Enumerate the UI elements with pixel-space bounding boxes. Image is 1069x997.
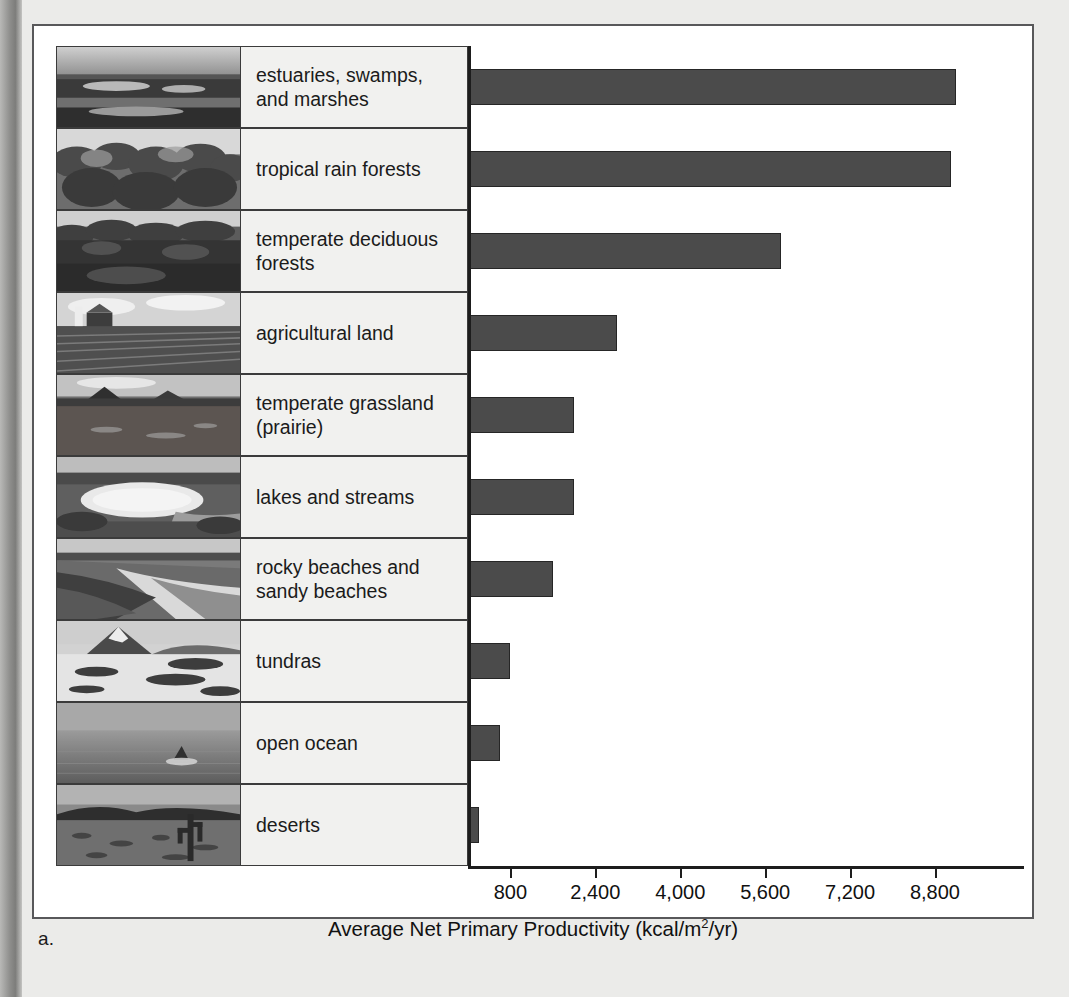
bar-chart: estuaries, swamps,and marshes tropical r… [34, 26, 1032, 917]
bar-track [468, 702, 996, 784]
x-axis-tick-label: 4,000 [655, 881, 705, 904]
open-ocean-photo [56, 702, 241, 784]
chart-row: agricultural land [56, 292, 996, 374]
chart-row: lakes and streams [56, 456, 996, 538]
category-label: temperate deciduousforests [241, 227, 444, 275]
chart-row: deserts [56, 784, 996, 866]
category-cell: lakes and streams [241, 456, 468, 538]
x-axis-tick [680, 869, 682, 878]
x-axis-tick [850, 869, 852, 878]
bar-track [468, 46, 996, 128]
bar-track [468, 374, 996, 456]
category-label: tropical rain forests [241, 157, 427, 181]
x-axis-tick [935, 869, 937, 878]
deciduous-forest-photo [56, 210, 241, 292]
bar [468, 69, 956, 105]
x-axis-tick-label: 5,600 [740, 881, 790, 904]
chart-row: tropical rain forests [56, 128, 996, 210]
bar [468, 725, 500, 761]
estuary-marsh-photo [56, 46, 241, 128]
category-cell: agricultural land [241, 292, 468, 374]
category-cell: temperate deciduousforests [241, 210, 468, 292]
bar-track [468, 128, 996, 210]
category-label: temperate grassland(prairie) [241, 391, 440, 439]
bar-track [468, 292, 996, 374]
bar-track [468, 784, 996, 866]
chart-rows: estuaries, swamps,and marshes tropical r… [56, 46, 996, 866]
x-axis-tick-label: 2,400 [570, 881, 620, 904]
category-label: estuaries, swamps,and marshes [241, 63, 429, 111]
chart-row: open ocean [56, 702, 996, 784]
x-axis-tick-label: 800 [494, 881, 527, 904]
prairie-photo [56, 374, 241, 456]
x-axis-tick [510, 869, 512, 878]
bar [468, 151, 951, 187]
x-axis-title: Average Net Primary Productivity (kcal/m… [34, 916, 1032, 941]
chart-row: temperate grassland(prairie) [56, 374, 996, 456]
category-label: open ocean [241, 731, 364, 755]
category-label: rocky beaches andsandy beaches [241, 555, 426, 603]
category-cell: tropical rain forests [241, 128, 468, 210]
bar [468, 561, 553, 597]
lake-stream-photo [56, 456, 241, 538]
category-cell: rocky beaches andsandy beaches [241, 538, 468, 620]
y-axis-line [468, 46, 471, 869]
x-axis-tick-label: 7,200 [825, 881, 875, 904]
x-axis-title-main: Average Net Primary Productivity (kcal/m [328, 917, 701, 940]
figure-panel: estuaries, swamps,and marshes tropical r… [32, 24, 1034, 919]
chart-row: estuaries, swamps,and marshes [56, 46, 996, 128]
tundra-mountain-photo [56, 620, 241, 702]
x-axis-tick [595, 869, 597, 878]
desert-cactus-photo [56, 784, 241, 866]
figure-caption: a. [38, 928, 54, 950]
page-background: estuaries, swamps,and marshes tropical r… [0, 0, 1069, 997]
category-cell: deserts [241, 784, 468, 866]
bar-track [468, 620, 996, 702]
rainforest-canopy-photo [56, 128, 241, 210]
category-cell: temperate grassland(prairie) [241, 374, 468, 456]
category-cell: estuaries, swamps,and marshes [241, 46, 468, 128]
x-axis-line [468, 866, 1024, 869]
bar [468, 643, 510, 679]
bar [468, 233, 781, 269]
category-label: lakes and streams [241, 485, 420, 509]
category-label: tundras [241, 649, 327, 673]
chart-row: rocky beaches andsandy beaches [56, 538, 996, 620]
bar [468, 479, 574, 515]
category-label: deserts [241, 813, 326, 837]
bar [468, 315, 617, 351]
chart-row: tundras [56, 620, 996, 702]
x-axis-tick-label: 8,800 [910, 881, 960, 904]
farm-field-photo [56, 292, 241, 374]
bar-track [468, 210, 996, 292]
beach-photo [56, 538, 241, 620]
page-left-gutter [0, 0, 22, 997]
chart-row: temperate deciduousforests [56, 210, 996, 292]
x-axis-title-tail: /yr) [708, 917, 738, 940]
category-cell: tundras [241, 620, 468, 702]
x-axis-tick [765, 869, 767, 878]
bar-track [468, 538, 996, 620]
category-label: agricultural land [241, 321, 400, 345]
bar-track [468, 456, 996, 538]
category-cell: open ocean [241, 702, 468, 784]
bar [468, 397, 574, 433]
